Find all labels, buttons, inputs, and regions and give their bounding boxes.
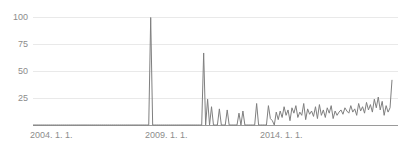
xtick-label-2004: 2004. 1. 1. (30, 130, 73, 140)
gridlines (33, 18, 398, 99)
xtick-label-2009: 2009. 1. 1. (145, 130, 188, 140)
x-axis-tick-labels: 2004. 1. 1. 2009. 1. 1. 2014. 1. 1. (30, 130, 303, 140)
ytick-label-100: 100 (13, 12, 28, 22)
ytick-label-75: 75 (18, 39, 28, 49)
xtick-label-2014: 2014. 1. 1. (260, 130, 303, 140)
chart-container: 100 75 50 25 2004. 1. 1. 2009. 1. 1. 201… (0, 0, 408, 153)
y-axis-tick-labels: 100 75 50 25 (13, 12, 28, 103)
line-chart: 100 75 50 25 2004. 1. 1. 2009. 1. 1. 201… (0, 0, 408, 153)
ytick-label-25: 25 (18, 93, 28, 103)
ytick-label-50: 50 (18, 66, 28, 76)
